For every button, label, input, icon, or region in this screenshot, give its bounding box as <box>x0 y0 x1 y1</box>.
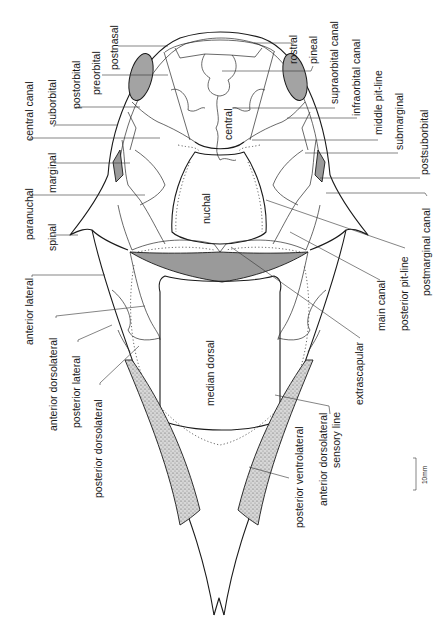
label-postmarginal-canal: postmarginal canal <box>420 208 432 296</box>
label-middle-pit-line: middle pit-line <box>372 70 384 135</box>
label-posterior-dorsolateral: posterior dorsolateral <box>92 399 104 498</box>
label-supraorbital-canal: supraorbital canal <box>328 21 340 104</box>
label-submarginal: submarginal <box>393 93 405 150</box>
label-paranuchal: paranuchal <box>23 188 35 240</box>
label-infraorbital-canal: infraorbital canal <box>350 39 362 116</box>
label-posterior-pit-line: posterior pit-line <box>398 256 410 331</box>
scale-bar <box>413 458 416 490</box>
label-anterior-dorsolateral: anterior dorsolateral <box>47 338 59 431</box>
postnuchal-band <box>130 252 308 282</box>
label-postorbital: postorbital <box>70 61 82 109</box>
label-preorbital: preorbital <box>90 51 102 95</box>
label-spinal: spinal <box>46 224 58 251</box>
label-rostral: rostral <box>287 35 299 64</box>
label-extrascapular: extrascapular <box>353 341 365 405</box>
scale-bar-label: 10mm <box>421 466 428 484</box>
label-posterior-lateral: posterior lateral <box>70 356 82 428</box>
label-central-canal: central canal <box>23 81 35 141</box>
label-central: central <box>222 108 234 140</box>
label-postnasal: postnasal <box>108 25 120 70</box>
armour-diagram: postnasal preorbital postorbital suborbi… <box>0 0 439 620</box>
label-posterior-ventrolateral: posterior ventrolateral <box>293 426 305 528</box>
label-median-dorsal: median dorsal <box>204 340 216 406</box>
right-spinal <box>310 175 368 250</box>
extrascapular-region <box>130 240 308 282</box>
label-suborbital: suborbital <box>46 79 58 125</box>
label-nuchal: nuchal <box>200 193 212 224</box>
trunk-armour <box>92 230 346 615</box>
label-anterior-lateral: anterior lateral <box>23 278 35 345</box>
label-anterior-dorsolateral-sensory-line-2: sensory line <box>330 412 342 468</box>
median-dorsal-plate <box>159 276 281 430</box>
label-anterior-dorsolateral-sensory-line-1: anterior dorsolateral <box>317 413 329 506</box>
left-posterior-ventrolateral-spine <box>125 360 200 525</box>
label-postsuborbital: postsuborbital <box>418 110 430 175</box>
label-pineal: pineal <box>307 36 319 64</box>
label-main-canal: main canal <box>375 280 387 331</box>
label-marginal: marginal <box>46 153 58 193</box>
left-spinal <box>70 175 128 250</box>
